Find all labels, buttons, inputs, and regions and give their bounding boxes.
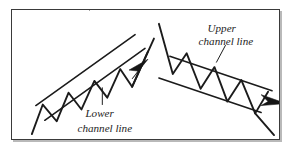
- upper-channel-leader-line: [216, 45, 225, 62]
- upper-channel-label-line1: Upper: [208, 22, 237, 34]
- rising-channel-diagram: Lower channel line: [32, 35, 154, 134]
- upper-channel-label-line2: channel line: [199, 35, 254, 47]
- figure-screenshot: Lower channel line Upper: [0, 0, 293, 152]
- falling-lower-channel-line: [159, 78, 261, 112]
- falling-breakdown-shaft: [255, 113, 274, 135]
- lower-channel-label-line2: channel line: [78, 122, 133, 134]
- lower-channel-label-line1: Lower: [84, 107, 114, 119]
- rising-breakout-arrowhead: [129, 59, 148, 79]
- figure-frame: Lower channel line Upper: [11, 9, 280, 140]
- channel-patterns-figure: Lower channel line Upper: [12, 10, 279, 139]
